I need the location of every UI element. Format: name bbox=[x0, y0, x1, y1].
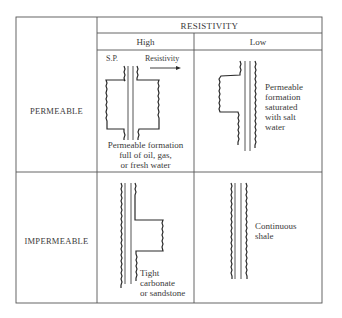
log-permeable-high bbox=[106, 66, 181, 140]
caption-line: Continuous bbox=[255, 221, 297, 231]
caption-line: or fresh water bbox=[97, 160, 194, 170]
caption-line: Tight bbox=[140, 268, 159, 278]
arrow-right-icon bbox=[176, 66, 181, 70]
caption-line: with salt bbox=[265, 112, 296, 122]
caption-line: formation bbox=[265, 92, 301, 102]
caption-line: or sandstone bbox=[140, 288, 185, 298]
caption-line: shale bbox=[255, 231, 274, 241]
log-permeable-low bbox=[219, 61, 256, 151]
caption-line: carbonate bbox=[140, 278, 175, 288]
column-low: Low bbox=[194, 37, 322, 47]
row-label-impermeable: IMPERMEABLE bbox=[16, 236, 97, 246]
log-impermeable-low bbox=[231, 183, 247, 279]
caption-line: water bbox=[265, 122, 285, 132]
caption-line: saturated bbox=[265, 102, 297, 112]
header-resistivity: RESISTIVITY bbox=[97, 21, 322, 31]
caption-line: Permeable bbox=[265, 82, 303, 92]
column-high: High bbox=[97, 37, 194, 47]
resistivity-label: Resistivity bbox=[145, 54, 179, 64]
caption-line: full of oil, gas, bbox=[97, 150, 194, 160]
sp-label: S.P. bbox=[106, 54, 118, 64]
row-label-permeable: PERMEABLE bbox=[16, 106, 97, 116]
caption-line: Permeable formation bbox=[97, 140, 194, 150]
